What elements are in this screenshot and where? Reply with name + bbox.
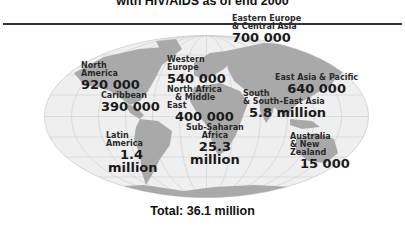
region-south-southeast-asia: South & South–East Asia 5.8 million xyxy=(243,90,326,119)
region-north-america: North America 920 000 xyxy=(81,62,140,91)
region-value: 540 000 xyxy=(167,72,226,85)
region-eastern-europe-central-asia: Eastern Europe & Central Asia 700 000 xyxy=(232,15,301,44)
region-value: million xyxy=(186,153,244,166)
title-divider xyxy=(3,23,402,25)
region-value: 390 000 xyxy=(101,100,160,113)
region-sub-saharan-africa: Sub-Saharan Africa 25.3 million xyxy=(186,124,244,166)
region-value: 700 000 xyxy=(232,31,301,44)
region-caribbean: Caribbean 390 000 xyxy=(101,92,160,113)
region-value: 5.8 million xyxy=(243,106,326,119)
region-value: million xyxy=(106,161,158,174)
region-latin-america: Latin America 1.4 million xyxy=(106,132,158,174)
total-label: Total: 36.1 million xyxy=(0,204,405,218)
region-value: 15 000 xyxy=(290,157,350,170)
region-value: 400 000 xyxy=(167,110,234,123)
map-title: with HIV/AIDS as of end 2000 xyxy=(0,0,405,8)
region-western-europe: Western Europe 540 000 xyxy=(167,56,226,85)
region-australia-new-zealand: Australia & New Zealand 15 000 xyxy=(290,133,350,170)
region-north-africa-middle-east: North Africa & Middle East 400 000 xyxy=(167,86,234,123)
region-value: 920 000 xyxy=(81,78,140,91)
